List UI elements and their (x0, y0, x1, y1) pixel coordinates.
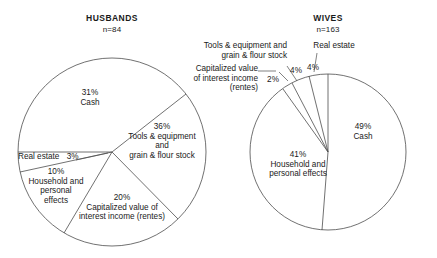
husbands-title-text: HUSBANDS (86, 13, 138, 23)
wives-slice-label-household: 41% Household and personal effects (248, 150, 348, 179)
husbands-cash-name: Cash (45, 98, 135, 108)
husbands-sample-size: n=84 (52, 24, 172, 35)
pie-chart-figure: HUSBANDS n=84 WIVES n=163 31% Cash 36% T… (0, 0, 437, 258)
wives-title-text: WIVES (313, 13, 343, 23)
wives-sample-size: n=163 (268, 24, 388, 35)
husbands-slice-label-realestate: Real estate 3% (18, 152, 98, 162)
wives-realestate-percent: 4% (304, 63, 322, 73)
wives-realestate-name: Real estate (296, 41, 372, 51)
wives-rentes-percent-label: 2% (264, 75, 282, 85)
husbands-tools-percent: 36% (117, 122, 207, 132)
wives-household-percent: 41% (248, 150, 348, 160)
wives-rentes-line2: of interest income (182, 74, 258, 84)
husbands-slice-label-cash: 31% Cash (45, 88, 135, 107)
wives-cash-percent: 49% (333, 122, 393, 132)
wives-rentes-line3: (rentes) (182, 83, 258, 93)
husbands-cash-percent: 31% (45, 88, 135, 98)
wives-tools-percent-label: 4% (287, 66, 305, 76)
husbands-household-percent: 10% (14, 167, 98, 177)
husbands-tools-line3: grain & flour stock (117, 151, 207, 161)
wives-household-line2: personal effects (248, 169, 348, 179)
husbands-household-line2: personal (14, 186, 98, 196)
husbands-tools-line2: and (117, 141, 207, 151)
wives-cash-name: Cash (333, 132, 393, 142)
wives-rentes-percent: 2% (264, 75, 282, 85)
wives-tools-line2: grain & flour stock (197, 51, 287, 61)
wives-tools-line1: Tools & equipment and (197, 41, 287, 51)
wives-household-line1: Household and (248, 160, 348, 170)
husbands-household-line1: Household and (14, 177, 98, 187)
husbands-tools-line1: Tools & equipment (117, 132, 207, 142)
husbands-slice-label-tools: 36% Tools & equipment and grain & flour … (117, 122, 207, 160)
husbands-realestate-name: Real estate (18, 152, 59, 161)
wives-chart-title: WIVES n=163 (268, 13, 388, 35)
wives-callout-realestate: Real estate (296, 41, 372, 51)
husbands-realestate-percent: 3% (67, 152, 79, 161)
husbands-slice-label-household: 10% Household and personal effects (14, 167, 98, 205)
wives-callout-rentes: Capitalized value of interest income (re… (182, 64, 258, 93)
wives-realestate-percent-label: 4% (304, 63, 322, 73)
wives-slice-label-cash: 49% Cash (333, 122, 393, 141)
wives-callout-tools: Tools & equipment and grain & flour stoc… (197, 41, 287, 60)
husbands-chart-title: HUSBANDS n=84 (52, 13, 172, 35)
husbands-household-line3: effects (14, 196, 98, 206)
husbands-rentes-line2: interest income (rentes) (67, 212, 177, 222)
wives-tools-percent: 4% (287, 66, 305, 76)
wives-rentes-line1: Capitalized value (182, 64, 258, 74)
